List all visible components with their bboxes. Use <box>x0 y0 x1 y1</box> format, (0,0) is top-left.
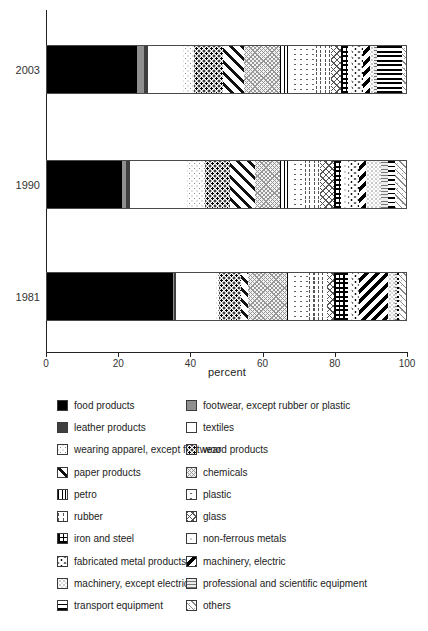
segment-fabricated-2003 <box>352 46 363 93</box>
segment-food-2003 <box>47 46 137 93</box>
segment-plastic-1990 <box>291 161 305 208</box>
segment-textiles-2003 <box>148 46 184 93</box>
segment-others-1990 <box>395 161 406 208</box>
segment-chemicals-1990 <box>255 161 280 208</box>
x-tick-label-20: 20 <box>113 358 124 369</box>
legend-row: machinery, except electricalprofessional… <box>0 572 428 594</box>
year-label-1990: 1990 <box>6 160 40 209</box>
x-axis-title: percent <box>208 366 246 378</box>
legend-item-rubber: rubber <box>0 511 186 522</box>
legend-swatch-glass <box>186 511 197 522</box>
segment-petro-2003 <box>280 46 291 93</box>
legend-item-footwear: footwear, except rubber or plastic <box>186 400 428 411</box>
legend-item-glass: glass <box>186 511 428 522</box>
legend-item-textiles: textiles <box>186 422 428 433</box>
legend-row: petroplastic <box>0 483 428 505</box>
legend-row: iron and steelnon-ferrous metals <box>0 528 428 550</box>
segment-iron-2003 <box>341 46 348 93</box>
x-tick-label-80: 80 <box>329 358 340 369</box>
legend-label-rubber: rubber <box>74 511 103 522</box>
legend-item-transport: transport equipment <box>0 600 186 611</box>
legend-item-fabricated: fabricated metal products <box>0 556 186 567</box>
segment-transport-2003 <box>377 46 402 93</box>
legend-swatch-mach-exc <box>57 578 68 589</box>
legend-item-food: food products <box>0 400 186 411</box>
legend-label-nonferrous: non-ferrous metals <box>203 533 286 544</box>
legend-swatch-paper <box>57 467 68 478</box>
legend-swatch-food <box>57 400 68 411</box>
legend-label-chemicals: chemicals <box>203 467 247 478</box>
legend-item-others: others <box>186 600 428 611</box>
segment-chemicals-1981 <box>248 273 287 320</box>
legend-item-mach-electric: machinery, electric <box>186 556 428 567</box>
legend-item-petro: petro <box>0 489 186 500</box>
segment-paper-1990 <box>230 161 255 208</box>
segment-glass-1981 <box>327 273 334 320</box>
segment-mach-electric-2003 <box>363 46 370 93</box>
legend-swatch-leather <box>57 422 68 433</box>
segment-transport-1990 <box>388 161 395 208</box>
segment-wood-2003 <box>194 46 223 93</box>
legend-swatch-mach-electric <box>186 556 197 567</box>
legend-item-nonferrous: non-ferrous metals <box>186 533 428 544</box>
chart-legend: food productsfootwear, except rubber or … <box>0 394 428 617</box>
legend-swatch-wearing <box>57 444 68 455</box>
segment-mach-electric-1981 <box>359 273 388 320</box>
segment-mach-exc-1981 <box>388 273 395 320</box>
segment-plastic-2003 <box>291 46 316 93</box>
stacked-bar-chart: 200319901981 020406080100 percent <box>0 0 428 392</box>
legend-swatch-fabricated <box>57 556 68 567</box>
bar-1981 <box>46 272 407 321</box>
x-tick-40 <box>190 352 191 357</box>
bar-2003 <box>46 45 407 94</box>
x-tick-100 <box>407 352 408 357</box>
legend-label-mach-electric: machinery, electric <box>203 556 286 567</box>
x-tick-label-40: 40 <box>185 358 196 369</box>
legend-swatch-petro <box>57 489 68 500</box>
segment-others-2003 <box>402 46 406 93</box>
legend-swatch-professional <box>186 578 197 589</box>
legend-item-mach-exc: machinery, except electrical <box>0 578 186 589</box>
segment-textiles-1981 <box>176 273 215 320</box>
bar-1990 <box>46 160 407 209</box>
legend-row: food productsfootwear, except rubber or … <box>0 394 428 416</box>
segment-iron-1990 <box>334 161 341 208</box>
segment-mach-exc-1990 <box>366 161 380 208</box>
segment-wearing-2003 <box>183 46 194 93</box>
legend-row: transport equipmentothers <box>0 595 428 617</box>
x-axis-line <box>46 352 408 353</box>
legend-item-plastic: plastic <box>186 489 428 500</box>
year-label-1981: 1981 <box>6 272 40 321</box>
x-tick-20 <box>118 352 119 357</box>
legend-label-footwear: footwear, except rubber or plastic <box>203 400 350 411</box>
segment-rubber-2003 <box>316 46 330 93</box>
x-tick-label-100: 100 <box>399 358 416 369</box>
segment-rubber-1990 <box>305 161 319 208</box>
segment-plastic-1981 <box>291 273 309 320</box>
legend-swatch-others <box>186 600 197 611</box>
legend-item-chemicals: chemicals <box>186 467 428 478</box>
legend-item-iron: iron and steel <box>0 533 186 544</box>
legend-item-leather: leather products <box>0 422 186 433</box>
segment-wearing-1990 <box>187 161 205 208</box>
legend-row: rubberglass <box>0 505 428 527</box>
legend-label-glass: glass <box>203 511 226 522</box>
segment-paper-2003 <box>223 46 245 93</box>
segment-fabricated-1981 <box>352 273 359 320</box>
legend-swatch-wood <box>186 444 197 455</box>
segment-paper-1981 <box>241 273 248 320</box>
segment-fabricated-1990 <box>348 161 359 208</box>
legend-item-paper: paper products <box>0 467 186 478</box>
legend-item-professional: professional and scientific equipment <box>186 578 428 589</box>
legend-label-mach-exc: machinery, except electrical <box>74 578 197 589</box>
legend-label-fabricated: fabricated metal products <box>74 556 186 567</box>
x-tick-60 <box>263 352 264 357</box>
segment-glass-1990 <box>320 161 334 208</box>
x-tick-80 <box>335 352 336 357</box>
segment-wood-1981 <box>219 273 241 320</box>
legend-swatch-rubber <box>57 511 68 522</box>
segment-chemicals-2003 <box>244 46 280 93</box>
legend-item-wearing: wearing apparel, except footwear <box>0 444 186 455</box>
legend-swatch-plastic <box>186 489 197 500</box>
legend-label-food: food products <box>74 400 135 411</box>
